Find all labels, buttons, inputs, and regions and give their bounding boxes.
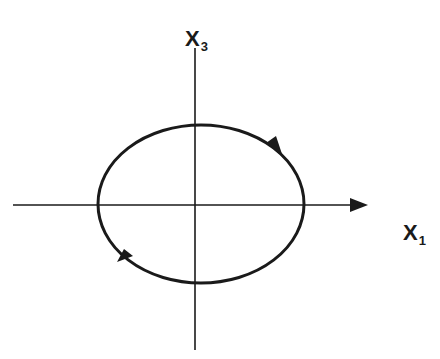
phase-diagram [0, 0, 440, 359]
x1-axis-label: X1 [403, 222, 426, 247]
x1-label-subscript: 1 [419, 233, 426, 248]
x3-label-text: X [185, 26, 200, 51]
x1-label-text: X [403, 220, 418, 245]
x3-axis-label: X3 [185, 28, 208, 53]
orbit-arrow-clockwise-top [266, 136, 283, 157]
x1-axis-arrowhead [350, 198, 368, 212]
x3-label-subscript: 3 [201, 39, 208, 54]
